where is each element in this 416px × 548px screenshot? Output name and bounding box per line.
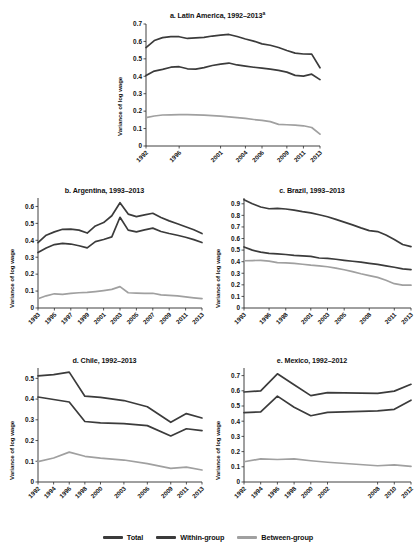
svg-text:2013: 2013 (309, 148, 324, 163)
svg-text:2007: 2007 (141, 310, 156, 325)
panel-b-plot: 00.10.20.30.40.50.6199319951997199920012… (16, 194, 206, 342)
svg-text:2013: 2013 (191, 310, 206, 325)
svg-text:0.3: 0.3 (25, 416, 34, 423)
legend-swatch-between-group (237, 536, 257, 539)
legend-item-within-group: Within-group (156, 533, 224, 542)
svg-text:1993: 1993 (233, 310, 248, 325)
panel-b-argentina: b. Argentina, 1993–2013 Variance of log … (2, 182, 207, 342)
svg-text:2001: 2001 (209, 148, 224, 163)
svg-text:0.3: 0.3 (231, 433, 240, 440)
svg-text:2001: 2001 (92, 310, 107, 325)
svg-text:2003: 2003 (316, 310, 331, 325)
panel-c-brazil: c. Brazil, 1993–2013 Variance of log wag… (208, 182, 416, 342)
svg-text:0.3: 0.3 (231, 270, 240, 277)
svg-text:1998: 1998 (73, 484, 88, 499)
svg-text:0.8: 0.8 (231, 212, 240, 219)
svg-text:0: 0 (236, 478, 240, 485)
svg-text:2009: 2009 (158, 310, 173, 325)
svg-text:2009: 2009 (159, 484, 174, 499)
svg-text:1999: 1999 (76, 310, 91, 325)
svg-text:0.4: 0.4 (231, 258, 240, 265)
panel-a-plot: 00.10.20.30.40.50.60.7199219962001200420… (124, 20, 324, 180)
svg-text:2006: 2006 (251, 148, 266, 163)
svg-text:0.6: 0.6 (231, 235, 240, 242)
svg-text:2011: 2011 (175, 484, 190, 499)
svg-text:0.2: 0.2 (231, 448, 240, 455)
panel-a-latin-america: a. Latin America, 1992–2013a Variance of… (110, 8, 325, 183)
svg-text:0.3: 0.3 (25, 254, 34, 261)
svg-text:1996: 1996 (266, 484, 281, 499)
svg-text:0.1: 0.1 (231, 463, 240, 470)
svg-text:0.7: 0.7 (231, 372, 240, 379)
svg-text:2006: 2006 (136, 484, 151, 499)
svg-text:2011: 2011 (292, 148, 307, 163)
svg-text:0.4: 0.4 (25, 237, 34, 244)
legend-swatch-total (103, 536, 123, 539)
svg-text:2008: 2008 (358, 310, 373, 325)
svg-text:1993: 1993 (27, 310, 42, 325)
svg-text:1996: 1996 (168, 148, 183, 163)
panel-c-plot: 00.10.20.30.40.50.60.70.80.9199319961998… (222, 194, 415, 342)
svg-text:0.1: 0.1 (25, 287, 34, 294)
legend-item-total: Total (103, 533, 143, 542)
svg-text:1994: 1994 (249, 484, 264, 499)
svg-text:0.2: 0.2 (25, 270, 34, 277)
svg-text:2013: 2013 (400, 310, 415, 325)
svg-text:0.3: 0.3 (133, 90, 142, 97)
svg-text:1992: 1992 (27, 484, 42, 499)
svg-text:0.1: 0.1 (25, 458, 34, 465)
svg-text:0.4: 0.4 (133, 73, 142, 80)
panel-b-y-axis-label: Variance of log wage (8, 249, 15, 308)
svg-text:0.6: 0.6 (231, 387, 240, 394)
panel-e-y-axis-label: Variance of log wage (214, 421, 221, 480)
svg-text:0.6: 0.6 (133, 38, 142, 45)
panel-d-plot: 00.10.20.30.40.5199219941996199820002003… (16, 364, 206, 516)
svg-text:0.7: 0.7 (231, 223, 240, 230)
chart-legend: Total Within-group Between-group (0, 533, 416, 542)
svg-text:0.1: 0.1 (133, 125, 142, 132)
svg-text:2003: 2003 (109, 310, 124, 325)
svg-text:0.5: 0.5 (231, 246, 240, 253)
svg-text:2011: 2011 (174, 310, 189, 325)
svg-text:2004: 2004 (234, 148, 249, 163)
legend-label-total: Total (127, 533, 143, 542)
svg-text:1996: 1996 (258, 310, 273, 325)
svg-text:2012: 2012 (400, 484, 415, 499)
svg-text:1994: 1994 (42, 484, 57, 499)
svg-text:1992: 1992 (135, 148, 150, 163)
svg-text:2003: 2003 (112, 484, 127, 499)
svg-text:0.5: 0.5 (25, 375, 34, 382)
svg-text:0: 0 (236, 304, 240, 311)
svg-text:1998: 1998 (274, 310, 289, 325)
svg-text:0.5: 0.5 (25, 220, 34, 227)
svg-text:1995: 1995 (43, 310, 58, 325)
svg-text:1992: 1992 (233, 484, 248, 499)
svg-text:0.4: 0.4 (25, 395, 34, 402)
legend-label-within-group: Within-group (180, 533, 224, 542)
svg-text:2011: 2011 (383, 310, 398, 325)
legend-item-between-group: Between-group (237, 533, 313, 542)
svg-text:0: 0 (30, 478, 34, 485)
svg-text:2013: 2013 (191, 484, 206, 499)
legend-swatch-within-group (156, 536, 176, 539)
panel-a-y-axis-label: Variance of log wage (116, 77, 123, 136)
panel-e-plot: 00.10.20.30.40.50.60.7199219941996199820… (222, 364, 415, 516)
svg-text:2001: 2001 (299, 310, 314, 325)
svg-text:0.2: 0.2 (133, 107, 142, 114)
svg-text:2000: 2000 (299, 484, 314, 499)
panel-d-chile: d. Chile, 1992–2013 Variance of log wage… (2, 352, 207, 517)
svg-text:0.9: 0.9 (231, 200, 240, 207)
svg-text:0.6: 0.6 (25, 203, 34, 210)
svg-text:0.5: 0.5 (231, 402, 240, 409)
svg-text:2010: 2010 (383, 484, 398, 499)
svg-text:0.2: 0.2 (231, 281, 240, 288)
svg-text:0: 0 (138, 142, 142, 149)
svg-text:1996: 1996 (58, 484, 73, 499)
panel-a-title: a. Latin America, 1992–2013a (110, 10, 325, 20)
svg-text:0.1: 0.1 (231, 293, 240, 300)
figure-multi-panel-chart: a. Latin America, 1992–2013a Variance of… (0, 0, 416, 548)
svg-text:0.4: 0.4 (231, 418, 240, 425)
panel-c-y-axis-label: Variance of log wage (214, 249, 221, 308)
svg-text:0.5: 0.5 (133, 55, 142, 62)
svg-text:2005: 2005 (125, 310, 140, 325)
